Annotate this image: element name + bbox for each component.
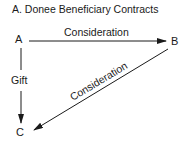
node-c: C [16, 127, 24, 138]
node-b: B [171, 36, 178, 47]
arrow-b-to-c [34, 49, 168, 130]
diagram-arrows [0, 0, 187, 149]
node-a: A [15, 34, 22, 45]
label-a-to-b: Consideration [64, 26, 129, 38]
label-a-to-c: Gift [11, 74, 27, 86]
